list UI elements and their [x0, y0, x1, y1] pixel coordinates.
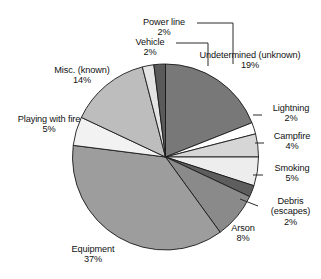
slice-label-playing-with-fire: Playing with fire 5% [8, 114, 90, 135]
slice-label-smoking-name: Smoking [265, 163, 319, 173]
slice-label-debris-pct: 2% [262, 217, 319, 227]
slice-label-misc-name: Misc. (known) [42, 65, 122, 75]
slice-label-playing-with-fire-name: Playing with fire [8, 114, 90, 124]
slice-label-campfire-pct: 4% [265, 141, 319, 151]
slice-label-arson-name: Arson [222, 223, 264, 233]
slice-label-debris: Debris (escapes) 2% [262, 196, 319, 227]
slice-label-vehicle: Vehicle 2% [125, 37, 175, 58]
slice-label-equipment-name: Equipment [55, 244, 131, 254]
slice-label-power-line: Power line 2% [131, 17, 197, 38]
slice-label-campfire-name: Campfire [265, 131, 319, 141]
slice-label-lightning-name: Lightning [263, 103, 319, 113]
slice-label-vehicle-pct: 2% [125, 47, 175, 57]
pie-chart-figure: Undetermined (unknown) 19% Lightning 2% … [0, 0, 321, 279]
slice-label-debris-name2: (escapes) [262, 206, 319, 216]
slice-label-smoking-pct: 5% [265, 173, 319, 183]
slice-label-power-line-pct: 2% [131, 27, 197, 37]
slice-label-equipment-pct: 37% [55, 254, 131, 264]
slice-label-arson: Arson 8% [222, 223, 264, 244]
slice-label-undetermined-pct: 19% [187, 60, 313, 70]
slice-label-misc: Misc. (known) 14% [42, 65, 122, 86]
slice-label-undetermined: Undetermined (unknown) 19% [187, 50, 313, 71]
slice-label-lightning-pct: 2% [263, 113, 319, 123]
slice-label-smoking: Smoking 5% [265, 163, 319, 184]
slice-label-misc-pct: 14% [42, 75, 122, 85]
slice-label-power-line-name: Power line [131, 17, 197, 27]
slice-label-vehicle-name: Vehicle [125, 37, 175, 47]
slice-label-campfire: Campfire 4% [265, 131, 319, 152]
slice-label-lightning: Lightning 2% [263, 103, 319, 124]
slice-label-arson-pct: 8% [222, 233, 264, 243]
slice-label-playing-with-fire-pct: 5% [8, 124, 90, 134]
slice-label-undetermined-name: Undetermined (unknown) [187, 50, 313, 60]
slice-label-debris-name: Debris [262, 196, 319, 206]
slice-label-equipment: Equipment 37% [55, 244, 131, 265]
